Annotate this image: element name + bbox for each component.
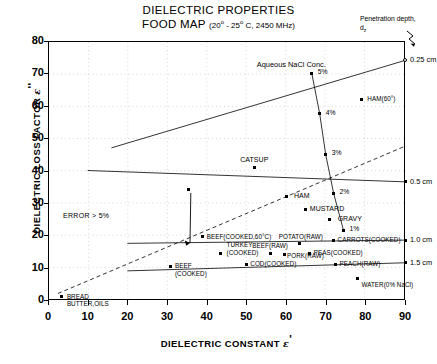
data-point-label-ham-60-c-: HAM(60°): [367, 95, 395, 103]
nacl-point-2pct: [332, 192, 335, 195]
data-point-label-peas-cooked-: PEAS(COOKED): [314, 249, 363, 257]
data-point-ham: [285, 195, 288, 198]
data-point-label-gravy: GRAVY: [338, 215, 362, 223]
data-point-beef-raw-: [269, 252, 272, 255]
data-point-cod-cooked-: [245, 263, 248, 266]
nacl-concentration-label-5pct: 5%: [318, 68, 328, 75]
data-point-label-mustard: MUSTARD: [310, 205, 344, 213]
error-annotation-arrowhead-icon: [185, 240, 190, 245]
data-point-peach-raw-: [334, 263, 337, 266]
data-point-label-cod-cooked-: COD(COOKED): [250, 260, 296, 268]
data-point-carrots-cooked-: [332, 239, 335, 242]
nacl-series-segment: [326, 154, 334, 193]
data-point-label-beef-cooked-60-c-: BEEF(COOKED,60°C): [207, 233, 272, 241]
nacl-series-segment: [312, 73, 320, 113]
data-point-label-catsup: CATSUP: [240, 156, 268, 164]
nacl-concentration-label-1pct: 1%: [350, 225, 360, 232]
nacl-concentration-label-3pct: 3%: [332, 149, 342, 156]
error-annotation-leader-line: [190, 193, 191, 243]
data-point-label-beef-cooked-: BEEF: [175, 262, 192, 270]
data-point-label-potato-raw-: POTATO(RAW): [279, 233, 323, 241]
nacl-point-5pct: [310, 72, 313, 75]
data-point-turkey-cooked-: [219, 252, 222, 255]
data-point-label-turkey-cooked-: TURKEY: [227, 241, 253, 249]
nacl-point-3pct: [324, 153, 327, 156]
penetration-depth-line-05cm: [88, 171, 405, 182]
nacl-concentration-label-4pct: 4%: [326, 109, 336, 116]
data-point-butter-oils: [60, 295, 63, 298]
penetration-depth-endpoint-2: [404, 239, 407, 242]
nacl-series-title: Aqueous NaCl Conc.: [257, 60, 326, 69]
data-point-error-5pct-tip: [187, 188, 190, 191]
data-point-label-butter-oils: BREAD: [67, 293, 89, 301]
data-point-label-butter-oils: BUTTER,OILS: [67, 300, 109, 308]
chart-root: DIELECTRIC PROPERTIES FOOD MAP (20o - 25…: [0, 0, 437, 364]
nacl-series-segment: [320, 114, 326, 154]
data-point-label-peach-raw-: PEACH(RAW): [340, 260, 381, 268]
data-point-pork-raw-: [283, 253, 286, 256]
penetration-depth-label-3: 1.5 cm: [410, 258, 432, 267]
data-point-peas-cooked-: [308, 252, 311, 255]
data-point-beef-cooked-: [169, 265, 172, 268]
data-point-label-ham: HAM: [294, 192, 310, 200]
chart-data-layer: [0, 0, 437, 364]
data-point-label-turkey-cooked-: (COOKED): [227, 249, 259, 257]
nacl-point-4pct: [318, 112, 321, 115]
nacl-concentration-label-2pct: 2%: [340, 188, 350, 195]
data-point-gravy: [328, 218, 331, 221]
data-point-potato-raw-: [298, 242, 301, 245]
data-point-label-carrots-cooked-: CARROTS(COOKED): [338, 236, 401, 244]
data-point-ham-60-c-: [360, 98, 363, 101]
penetration-depth-line-025cm: [111, 60, 405, 147]
data-point-mustard: [304, 208, 307, 211]
error-threshold-label: ERROR > 5%: [63, 212, 109, 219]
data-point-beef-cooked-60-c-: [201, 235, 204, 238]
data-point-water-0-nacl-: [356, 277, 359, 280]
penetration-depth-label-0: 0.25 cm: [410, 55, 436, 64]
data-point-label-water-0-nacl-: WATER(0% NaCl): [361, 281, 413, 289]
data-point-catsup: [253, 166, 256, 169]
penetration-depth-endpoint-3: [404, 261, 407, 264]
nacl-point-1pct: [342, 229, 345, 232]
penetration-depth-label-1: 0.5 cm: [410, 177, 432, 186]
data-point-label-beef-cooked-: (COOKED): [175, 270, 207, 278]
penetration-depth-endpoint-1: [404, 180, 407, 183]
data-point-label-beef-raw-: BEEF(RAW): [252, 242, 288, 250]
penetration-depth-label-2: 1.0 cm: [410, 235, 432, 244]
